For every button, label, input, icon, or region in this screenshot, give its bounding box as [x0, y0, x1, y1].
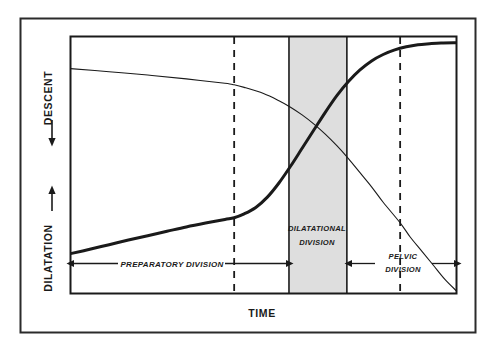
x-axis-time-label: TIME — [248, 307, 275, 319]
y-axis-descent-group: DESCENT — [42, 71, 56, 147]
dilatational-division-label-line2: DIVISION — [299, 238, 335, 247]
y-axis-dilatation-label: DILATATION — [42, 224, 54, 291]
dilatational-division-band — [289, 37, 347, 293]
labor-curve-chart: DESCENT DILATATION PREPARATORY DIVISION … — [0, 0, 496, 351]
pelvic-division-label-line2: DIVISION — [385, 265, 421, 274]
pelvic-division-label-line1: PELVIC — [389, 252, 418, 261]
preparatory-division-label: PREPARATORY DIVISION — [120, 260, 223, 269]
dilatation-arrow-up-icon — [48, 186, 55, 195]
figure-outer-border — [21, 19, 476, 333]
figure-root: DESCENT DILATATION PREPARATORY DIVISION … — [0, 0, 496, 351]
dilatation-curve — [71, 43, 457, 254]
dilatational-division-label-line1: DILATATIONAL — [288, 224, 346, 233]
y-axis-dilatation-group: DILATATION — [42, 186, 56, 292]
descent-arrow-down-icon — [48, 138, 55, 147]
y-axis-descent-label: DESCENT — [42, 71, 54, 125]
